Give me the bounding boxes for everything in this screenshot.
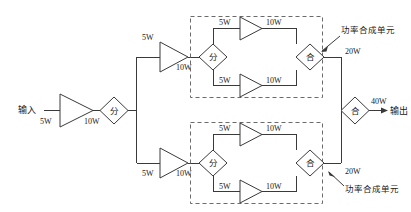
input-power-label: 5W [40,117,52,126]
bottom-unit-branch1-amplifier [240,123,262,146]
top-unit-branch2-in-power: 5W [219,76,231,85]
stage2-bottom-amp-in-power: 5W [142,169,154,178]
top-unit-annotation: 功率合成单元 [341,25,395,35]
bottom-unit-branch2-out-power: 10W [266,182,282,191]
input-amp-out-power: 10W [84,117,100,126]
schematic-canvas: 输入 5W 10W 分 5W 10W 5W 10W 分 5W 10W [0,0,411,212]
bottom-unit-combiner-symbol: 合 [306,158,315,168]
output-power-label: 40W [371,97,387,106]
top-power-combining-unit: 分 5W 10W 5W 10W 合 20W 功率合成单元 [191,17,396,98]
power-combining-diagram: 输入 5W 10W 分 5W 10W 5W 10W 分 5W 10W [0,0,411,212]
bottom-unit-branch2-amplifier [240,180,262,203]
bottom-unit-branch1-in-power: 5W [219,124,231,133]
top-unit-branch2-amplifier [240,74,262,97]
top-unit-splitter-symbol: 分 [209,52,218,62]
top-unit-branch2-out-power: 10W [266,76,282,85]
top-unit-out-power: 20W [345,47,361,56]
output-arrow-group [369,108,388,114]
stage2-bottom-amp-out-power: 10W [176,169,192,178]
top-unit-branch1-out-power: 10W [266,18,282,27]
stage2-top-amp-in-power: 5W [142,33,154,42]
stage2-top-amp-out-power: 10W [176,63,192,72]
bottom-unit-splitter-symbol: 分 [209,158,218,168]
output-label: 输出 [390,105,408,116]
bottom-power-combining-unit: 分 5W 10W 5W 10W 合 20W 功率合成单元 [191,123,400,204]
output-arrowhead [381,108,388,114]
bottom-unit-branch2-in-power: 5W [219,182,231,191]
final-combiner-symbol: 合 [351,106,360,116]
bottom-unit-branch1-out-power: 10W [266,124,282,133]
main-splitter-symbol: 分 [110,106,119,116]
top-unit-combiner-symbol: 合 [306,52,315,62]
top-unit-branch1-amplifier [240,17,262,40]
top-unit-leader-line [322,36,340,51]
bottom-unit-out-power: 20W [345,167,361,176]
top-unit-branch1-in-power: 5W [219,18,231,27]
bottom-unit-annotation: 功率合成单元 [345,184,399,194]
input-label: 输入 [18,104,36,115]
